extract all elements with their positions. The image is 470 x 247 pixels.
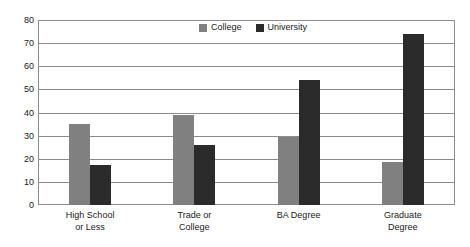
x-axis-category-label: Trade orCollege xyxy=(144,209,244,233)
y-axis-tick-label: 50 xyxy=(2,85,34,94)
bar-group xyxy=(382,20,424,205)
bar-group xyxy=(69,20,111,205)
bar-college xyxy=(69,124,90,205)
y-axis-tick-label: 10 xyxy=(2,177,34,186)
x-axis-category-line: Trade or xyxy=(144,209,244,221)
y-axis-tick-label: 60 xyxy=(2,62,34,71)
x-axis-category-line: Degree xyxy=(353,221,453,233)
legend-label: University xyxy=(268,23,308,32)
x-axis-category-line: BA Degree xyxy=(249,209,349,221)
chart-legend: CollegeUniversity xyxy=(196,22,310,33)
x-axis-category-label: High Schoolor Less xyxy=(40,209,140,233)
bar-university xyxy=(90,165,111,205)
legend-swatch-icon xyxy=(199,24,207,32)
bar-chart: 80706050403020100 High Schoolor LessTrad… xyxy=(0,0,470,247)
bar-university xyxy=(403,34,424,205)
x-axis: High Schoolor LessTrade orCollegeBA Degr… xyxy=(38,209,455,243)
y-axis-tick-label: 20 xyxy=(2,154,34,163)
y-axis: 80706050403020100 xyxy=(0,20,34,205)
bar-university xyxy=(299,80,320,205)
x-axis-category-line: High School xyxy=(40,209,140,221)
legend-entry-university: University xyxy=(256,23,308,32)
legend-entry-college: College xyxy=(199,23,242,32)
y-axis-tick-label: 80 xyxy=(2,16,34,25)
bar-college xyxy=(173,115,194,205)
legend-label: College xyxy=(211,23,242,32)
bar-college xyxy=(382,162,403,205)
legend-swatch-icon xyxy=(256,24,264,32)
x-axis-category-line: College xyxy=(144,221,244,233)
y-axis-tick-label: 0 xyxy=(2,201,34,210)
y-axis-tick-label: 40 xyxy=(2,108,34,117)
x-axis-category-line: Graduate xyxy=(353,209,453,221)
bar-college xyxy=(278,137,299,205)
x-axis-category-label: BA Degree xyxy=(249,209,349,221)
bar-group xyxy=(278,20,320,205)
bar-university xyxy=(194,145,215,205)
x-axis-category-label: GraduateDegree xyxy=(353,209,453,233)
bars-layer xyxy=(38,20,455,205)
bar-group xyxy=(173,20,215,205)
y-axis-tick-label: 70 xyxy=(2,39,34,48)
y-axis-tick-label: 30 xyxy=(2,131,34,140)
x-axis-category-line: or Less xyxy=(40,221,140,233)
